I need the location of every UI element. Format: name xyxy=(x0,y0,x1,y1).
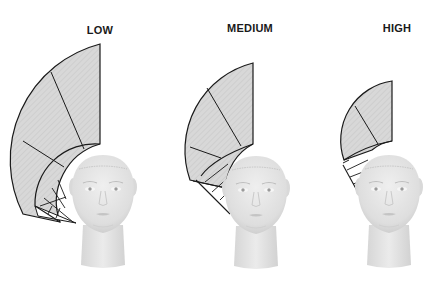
label-high: HIGH xyxy=(383,22,411,34)
label-medium: MEDIUM xyxy=(227,22,273,34)
mannequin-head-high xyxy=(355,155,423,268)
elevation-diagram xyxy=(0,0,446,284)
label-low: LOW xyxy=(87,24,113,36)
mannequin-head-medium xyxy=(222,156,290,269)
panel-high xyxy=(341,81,423,268)
mannequin-head-low xyxy=(69,155,137,268)
panel-low xyxy=(10,44,137,268)
panel-medium xyxy=(185,63,290,269)
